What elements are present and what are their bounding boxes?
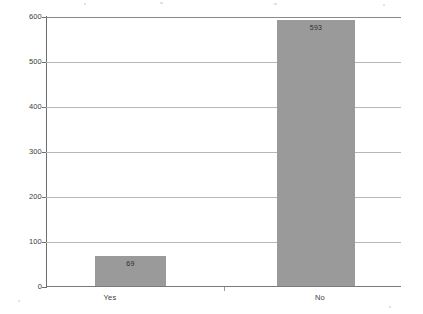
y-tick-mark-0	[42, 287, 46, 288]
bar-chart-figure: 600 500 400 300 200 100 0 69 593 Yes No	[0, 0, 423, 314]
bar-yes: 69	[95, 256, 166, 287]
scan-speck	[389, 306, 391, 308]
gridline-600	[46, 17, 401, 18]
x-axis-label-no: No	[281, 293, 359, 302]
x-axis-label-yes: Yes	[75, 293, 145, 302]
bar-no: 593	[277, 20, 355, 287]
y-tick-label-300: 300	[2, 148, 42, 156]
scan-speck	[18, 300, 20, 302]
y-tick-label-200: 200	[2, 193, 42, 201]
y-tick-label-500: 500	[2, 58, 42, 66]
y-tick-label-100: 100	[2, 238, 42, 246]
y-tick-label-400: 400	[2, 103, 42, 111]
plot-area: 69 593	[46, 17, 401, 287]
scan-speck	[84, 3, 86, 5]
x-axis-tick-mid	[224, 287, 225, 291]
y-tick-label-0: 0	[2, 283, 42, 291]
scan-speck	[383, 4, 385, 6]
scan-speck	[160, 2, 163, 4]
scan-speck	[274, 3, 277, 5]
bar-value-no: 593	[277, 24, 355, 32]
y-tick-label-600: 600	[2, 13, 42, 21]
bar-value-yes: 69	[95, 260, 166, 268]
y-axis-tick-labels: 600 500 400 300 200 100 0	[0, 17, 42, 287]
